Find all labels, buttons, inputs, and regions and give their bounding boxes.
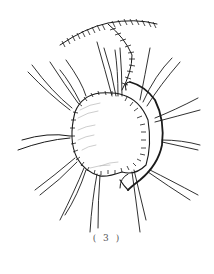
- top-suture-line: [60, 19, 157, 47]
- wound-circle: [70, 91, 150, 176]
- figure-caption: ( 3 ): [0, 233, 214, 243]
- wound-shading: [78, 103, 118, 168]
- radiating-strands: [18, 42, 200, 232]
